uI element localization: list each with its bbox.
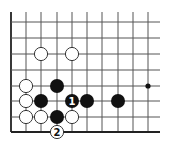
move-number-label: 1 <box>69 96 76 107</box>
white-stone <box>19 79 32 92</box>
black-stone <box>50 79 64 93</box>
white-stone-icon <box>19 79 32 92</box>
black-stone <box>50 110 64 124</box>
black-stone <box>34 94 48 108</box>
black-stone-icon <box>50 110 64 124</box>
black-stone: 1 <box>65 94 79 108</box>
white-stone-icon <box>19 110 32 123</box>
star-point-icon <box>145 83 150 88</box>
black-stone-icon <box>80 94 94 108</box>
white-stone: 2 <box>50 125 63 138</box>
go-board-diagram: 12 <box>0 0 169 148</box>
black-stone-icon <box>111 94 125 108</box>
white-stone <box>19 94 32 107</box>
black-stone <box>80 94 94 108</box>
white-stone <box>19 110 32 123</box>
black-stone-icon <box>34 94 48 108</box>
white-stone-icon <box>65 47 78 60</box>
white-stone <box>65 47 78 60</box>
white-stone-icon <box>34 110 47 123</box>
white-stone <box>65 110 78 123</box>
black-stone <box>111 94 125 108</box>
white-stone-icon <box>19 94 32 107</box>
white-stone <box>34 47 47 60</box>
black-stone-icon <box>50 79 64 93</box>
board-grid <box>11 12 160 132</box>
move-number-label: 2 <box>54 127 61 138</box>
white-stone-icon <box>34 47 47 60</box>
white-stone-icon <box>65 110 78 123</box>
star-points <box>145 83 150 88</box>
white-stone <box>34 110 47 123</box>
